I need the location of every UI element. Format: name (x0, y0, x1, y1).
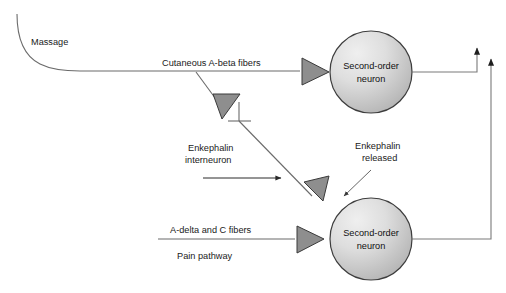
neuron-bottom-label-line2: neuron (357, 241, 386, 251)
diagram-canvas: Massage Cutaneous A-beta fibers Enkephal… (0, 0, 506, 293)
neuron-top-label-line2: neuron (357, 74, 386, 84)
label-cutaneous-a-beta-fibers: Cutaneous A-beta fibers (162, 58, 261, 68)
label-a-delta-and-c-fibers: A-delta and C fibers (170, 225, 252, 235)
label-enkephalin-released-line1: Enkephalin (355, 141, 400, 151)
label-enkephalin-released-line2: released (362, 153, 397, 163)
neuron-bottom-label-line1: Second-order (343, 228, 399, 238)
gate-control-diagram: Massage Cutaneous A-beta fibers Enkephal… (0, 0, 506, 293)
enkephalin-released-leader-arrow (344, 170, 371, 196)
neuron-top-label-line1: Second-order (343, 61, 399, 71)
synapse-a-beta-to-top-neuron (302, 58, 329, 85)
label-enkephalin-interneuron-line2: interneuron (185, 155, 231, 165)
second-order-neuron-top (330, 31, 412, 113)
label-enkephalin-interneuron-line1: Enkephalin (188, 143, 233, 153)
enkephalin-interneuron-collateral (196, 72, 240, 119)
enkephalin-interneuron-axon (239, 121, 329, 201)
label-massage: Massage (31, 37, 68, 47)
ascending-axon-top (412, 48, 477, 72)
label-pain-pathway: Pain pathway (177, 251, 233, 261)
second-order-neuron-bottom (330, 198, 412, 280)
ascending-axon-bottom (412, 59, 491, 239)
